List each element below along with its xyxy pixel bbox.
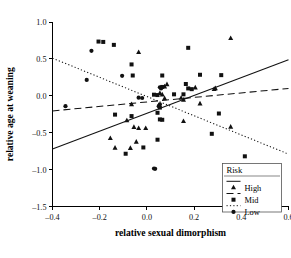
data-point-triangle bbox=[228, 124, 233, 129]
data-point-square bbox=[219, 73, 223, 77]
y-tick-label: –0.5 bbox=[31, 129, 46, 138]
y-axis-title: relative age at weaning bbox=[4, 67, 15, 161]
data-point-square bbox=[243, 154, 247, 158]
y-tick-label: 0.0 bbox=[36, 92, 46, 101]
data-point-square bbox=[156, 93, 160, 97]
data-point-triangle bbox=[134, 139, 139, 144]
data-point-circle bbox=[120, 74, 124, 78]
legend-label-mid: Mid bbox=[245, 196, 260, 205]
data-point-triangle bbox=[136, 49, 141, 54]
data-point-square bbox=[130, 62, 134, 66]
scatter-plot-figure: 1.00.50.0–0.5–1.0–1.5–0.4–0.20.00.20.40.… bbox=[0, 0, 291, 258]
data-point-square bbox=[181, 92, 185, 96]
fit-line-mid bbox=[53, 88, 289, 111]
data-point-square bbox=[184, 82, 188, 86]
legend-marker-mid bbox=[232, 198, 236, 202]
legend: RiskHighMidLow bbox=[223, 164, 282, 218]
data-point-square bbox=[210, 132, 214, 136]
data-point-square bbox=[124, 152, 128, 156]
data-point-square bbox=[130, 114, 134, 118]
data-point-circle bbox=[159, 86, 163, 90]
series-low bbox=[63, 49, 163, 171]
data-point-square bbox=[217, 112, 221, 116]
legend-label-low: Low bbox=[245, 208, 261, 217]
data-point-square bbox=[172, 92, 176, 96]
data-point-circle bbox=[157, 104, 161, 108]
data-point-square bbox=[141, 145, 145, 149]
data-point-circle bbox=[140, 96, 144, 100]
x-tick-label: 0.2 bbox=[189, 213, 199, 222]
data-point-triangle bbox=[131, 124, 136, 129]
y-tick-label: 0.5 bbox=[36, 55, 46, 64]
data-point-triangle bbox=[143, 125, 148, 130]
data-point-square bbox=[186, 86, 190, 90]
data-point-square bbox=[156, 138, 160, 142]
data-point-triangle bbox=[198, 101, 203, 106]
data-point-triangle bbox=[181, 118, 186, 123]
data-point-circle bbox=[63, 104, 67, 108]
y-tick-label: –1.5 bbox=[31, 203, 46, 212]
data-point-square bbox=[156, 111, 160, 115]
x-tick-label: 0.0 bbox=[142, 213, 152, 222]
legend-label-high: High bbox=[245, 184, 263, 193]
x-tick-label: 0.6 bbox=[283, 213, 291, 222]
legend-marker-low bbox=[231, 210, 235, 214]
data-point-square bbox=[112, 43, 116, 47]
data-point-triangle bbox=[108, 135, 113, 140]
data-point-square bbox=[131, 74, 135, 78]
data-point-square bbox=[160, 74, 164, 78]
series-high bbox=[108, 35, 233, 150]
y-tick-label: –1.0 bbox=[31, 166, 46, 175]
data-point-triangle bbox=[136, 125, 141, 130]
x-tick-label: –0.4 bbox=[44, 213, 59, 222]
data-point-square bbox=[186, 46, 190, 50]
data-point-circle bbox=[137, 96, 141, 100]
x-tick-label: –0.2 bbox=[92, 213, 107, 222]
data-point-circle bbox=[153, 167, 157, 171]
data-point-square bbox=[190, 87, 194, 91]
data-point-square bbox=[152, 93, 156, 97]
data-point-square bbox=[101, 40, 105, 44]
series-mid bbox=[97, 40, 247, 159]
data-point-triangle bbox=[113, 145, 118, 150]
data-point-square bbox=[97, 40, 101, 44]
x-axis-title: relative sexual dimorphism bbox=[115, 227, 226, 238]
chart-canvas: 1.00.50.0–0.5–1.0–1.5–0.4–0.20.00.20.40.… bbox=[0, 0, 291, 258]
data-point-square bbox=[160, 118, 164, 122]
data-point-triangle bbox=[228, 35, 233, 40]
data-point-circle bbox=[85, 78, 89, 82]
data-point-circle bbox=[89, 49, 93, 53]
data-point-square bbox=[198, 73, 202, 77]
data-point-triangle bbox=[128, 145, 133, 150]
y-tick-label: 1.0 bbox=[36, 18, 46, 27]
legend-title: Risk bbox=[227, 165, 243, 175]
data-point-square bbox=[113, 113, 117, 117]
